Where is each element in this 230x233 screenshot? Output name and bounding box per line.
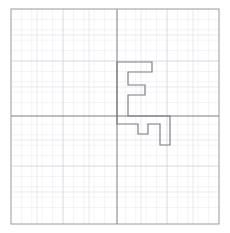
figure-container — [0, 0, 230, 233]
grid-plot-svg — [0, 0, 230, 233]
